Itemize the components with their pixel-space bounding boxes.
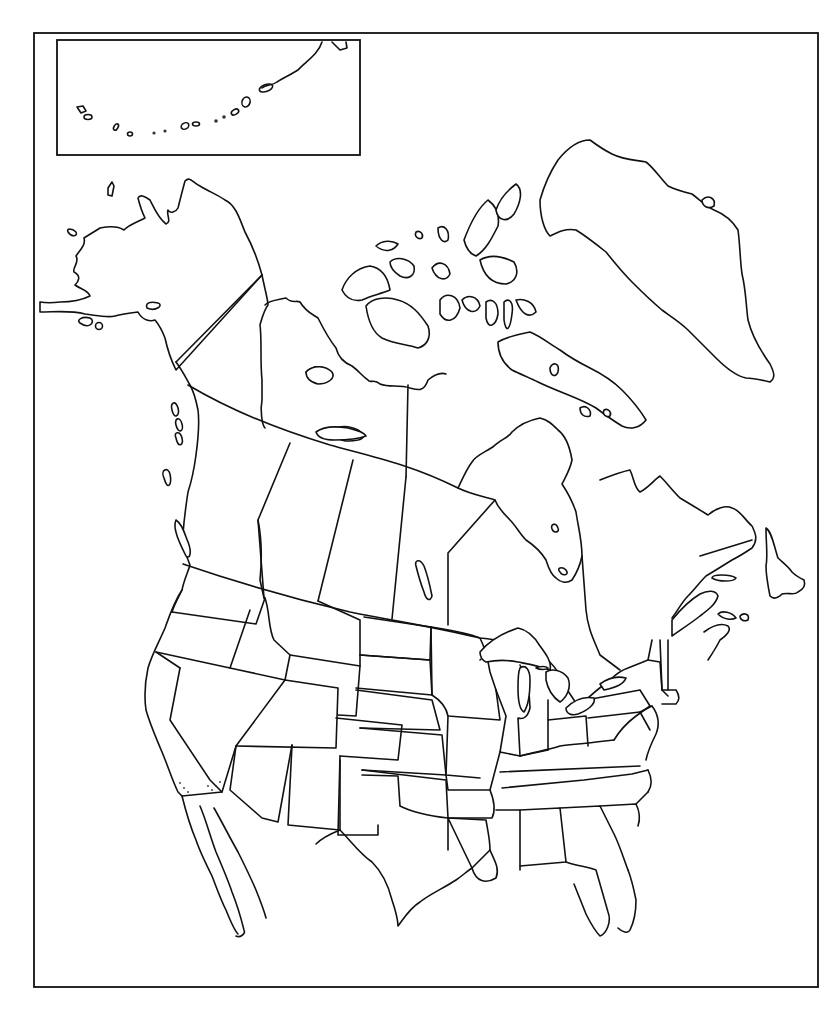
canada-northwest [260,275,268,428]
us-states [145,520,679,937]
baffin-island [498,332,646,428]
north-america-outline-map [0,0,830,1011]
border-dots [179,781,221,793]
pacific-northwest-coast [172,362,199,612]
great-bear-lake [306,367,333,384]
aleutian-inset [57,40,360,155]
newfoundland [766,528,805,598]
great-lakes [480,628,626,715]
greenland [540,140,774,382]
alaska [40,179,262,370]
quebec-labrador [582,470,756,670]
canada-us-border [183,564,520,648]
florida [618,870,636,932]
lake-winnipeg [416,561,432,600]
great-slave-lake [316,427,366,440]
hudson-bay [458,418,582,582]
